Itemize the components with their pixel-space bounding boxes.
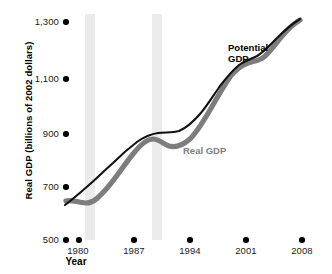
gdp-chart: 1,300 1,100 900 700 500 1980 1987 1994 2… [0,0,332,274]
y-tick-label-1300: 1,300 [14,16,59,27]
x-tick-label-2001: 2001 [225,245,267,256]
x-tick-label-1980: 1980 [57,245,99,256]
x-tick-dot-1980 [76,237,82,243]
potential-gdp-label: Potential GDP [228,43,268,65]
x-tick-dot-2008 [299,237,305,243]
y-tick-label-1100: 1,100 [14,73,59,84]
x-axis-title: Year [52,256,100,267]
y-tick-dot-900 [63,131,69,137]
y-tick-dot-500 [63,237,69,243]
x-tick-label-1994: 1994 [169,245,211,256]
y-tick-label-900: 900 [14,128,59,139]
x-tick-dot-2001 [243,237,249,243]
x-tick-label-2008: 2008 [281,245,323,256]
y-tick-dot-1300 [63,19,69,25]
real-gdp-label: Real GDP [183,146,226,157]
x-tick-label-1987: 1987 [113,245,155,256]
y-tick-dot-1100 [63,76,69,82]
y-tick-label-500: 500 [14,234,59,245]
y-tick-dot-700 [63,184,69,190]
y-tick-label-700: 700 [14,181,59,192]
x-tick-dot-1994 [187,237,193,243]
y-axis-title: Real GDP (billions of 2002 dollars) [23,31,34,211]
x-tick-dot-1987 [131,237,137,243]
recession-band-2 [152,14,162,240]
recession-band-1 [85,14,95,240]
